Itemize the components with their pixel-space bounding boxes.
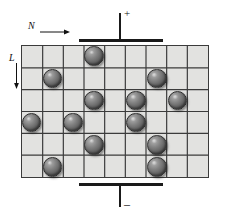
positive-electrode-lead (119, 13, 121, 39)
particle-sphere (84, 46, 104, 66)
particle-sphere (147, 135, 167, 155)
particle-sphere (43, 69, 63, 89)
particle-sphere (63, 113, 83, 133)
axis-label-n: N (28, 20, 35, 31)
positive-electrode-plate (79, 39, 163, 42)
particle-sphere (126, 91, 146, 111)
axis-label-l: L (9, 52, 15, 63)
particle-sphere (147, 157, 167, 177)
particle-sphere (43, 157, 63, 177)
right-arrow-icon (40, 28, 70, 36)
particle-sphere (126, 113, 146, 133)
particle-sphere (84, 91, 104, 111)
negative-sign-label: – (124, 199, 130, 210)
particle-sphere (147, 69, 167, 89)
negative-electrode-plate (79, 183, 163, 186)
down-arrow-icon (12, 63, 21, 89)
particle-sphere (84, 135, 104, 155)
negative-electrode-lead (119, 185, 121, 207)
positive-sign-label: + (124, 8, 130, 19)
figure-container: N L + – (0, 0, 225, 216)
